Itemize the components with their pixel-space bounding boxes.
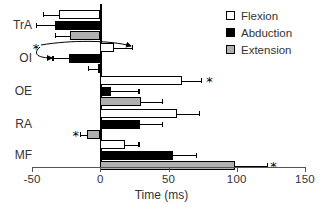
bar-oi-flexion [100, 43, 114, 52]
bar-oe-extension [100, 97, 141, 106]
error-cap-ra-abduction [162, 122, 163, 127]
category-label-tra: TrA [2, 18, 32, 32]
error-bar-tra-flexion [43, 15, 59, 16]
significance-asterisk-mf-extension: * [270, 159, 277, 172]
bar-tra-extension [70, 31, 100, 40]
bar-oe-flexion [100, 76, 182, 85]
bar-ra-flexion [100, 109, 176, 118]
error-bar-mf-abduction [173, 155, 196, 156]
x-tick-label-1: 0 [97, 173, 104, 185]
category-label-mf: MF [2, 148, 32, 162]
error-bar-oi-abduction [52, 58, 68, 59]
error-bar-ra-flexion [177, 114, 199, 115]
significance-asterisk-ra-extension: * [72, 128, 79, 141]
bar-mf-flexion [100, 140, 125, 149]
significance-asterisk-oi-flexion: * [33, 41, 40, 54]
bar-oi-extension [98, 64, 101, 73]
error-cap-tra-abduction [36, 23, 37, 28]
category-label-oi: OI [2, 51, 32, 65]
error-cap-tra-flexion [43, 12, 44, 17]
figure-container: Flexion Abduction Extension **** TrA OI … [0, 0, 323, 209]
bar-tra-abduction [55, 21, 100, 30]
error-bar-tra-extension [55, 36, 70, 37]
bar-ra-extension [87, 130, 101, 139]
bar-mf-abduction [100, 151, 172, 160]
bar-oe-abduction [100, 87, 111, 96]
x-tick-label-4: 150 [295, 173, 315, 185]
error-cap-ra-extension [80, 132, 81, 137]
error-cap-oi-flexion [132, 45, 133, 50]
error-cap-oe-abduction [138, 89, 139, 94]
x-tick-2 [169, 167, 170, 172]
significance-asterisk-oe-flexion: * [206, 74, 213, 87]
error-cap-tra-extension [55, 33, 56, 38]
error-cap-mf-abduction [196, 153, 197, 158]
error-cap-oi-abduction [52, 56, 53, 61]
error-bar-oi-extension [88, 69, 98, 70]
error-bar-mf-flexion [125, 145, 139, 146]
error-cap-oi-extension [88, 66, 89, 71]
error-bar-oi-flexion [114, 48, 132, 49]
error-cap-mf-flexion [138, 142, 139, 147]
x-tick-1 [100, 167, 101, 172]
x-tick-label-3: 100 [227, 173, 247, 185]
error-cap-oe-flexion [201, 78, 202, 83]
x-tick-label-2: 50 [162, 173, 175, 185]
error-bar-tra-abduction [36, 25, 55, 26]
error-cap-oe-extension [162, 99, 163, 104]
bar-oi-abduction [69, 54, 100, 63]
error-bar-oe-flexion [182, 81, 201, 82]
category-label-ra: RA [2, 117, 32, 131]
x-tick-label-0: -50 [23, 173, 40, 185]
error-bar-oe-extension [141, 102, 161, 103]
plot-area: **** [32, 4, 305, 167]
bar-tra-flexion [59, 10, 100, 19]
bar-ra-abduction [100, 120, 140, 129]
x-tick-4 [305, 167, 306, 172]
error-cap-ra-flexion [199, 111, 200, 116]
error-bar-oe-abduction [111, 91, 138, 92]
x-tick-3 [237, 167, 238, 172]
error-bar-ra-abduction [140, 124, 162, 125]
x-axis-title: Time (ms) [0, 188, 323, 202]
category-label-oe: OE [2, 84, 32, 98]
x-tick-0 [32, 167, 33, 172]
